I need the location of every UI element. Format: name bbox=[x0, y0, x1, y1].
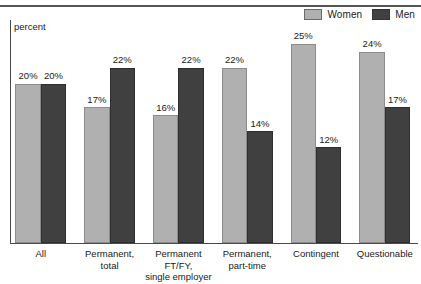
bar-men: 22% bbox=[110, 20, 135, 243]
bar-value-label: 24% bbox=[363, 39, 382, 49]
plot-area: 20%20%17%22%16%22%22%14%25%12%24%17% bbox=[11, 20, 417, 243]
category-label-line: single employer bbox=[135, 271, 222, 283]
bar-value-label: 25% bbox=[294, 31, 313, 41]
legend-item-women: Women bbox=[304, 9, 362, 20]
bar-value-label: 22% bbox=[225, 55, 244, 65]
bar-rect bbox=[41, 84, 66, 243]
bar-chart: Women Men percent 20%20%17%22%16%22%22%1… bbox=[0, 0, 421, 284]
bar-men: 14% bbox=[247, 20, 272, 243]
bar-rect bbox=[385, 107, 410, 242]
bar-rect bbox=[178, 68, 203, 243]
bar-women: 20% bbox=[15, 20, 40, 243]
category-label-line: Questionable bbox=[341, 248, 421, 260]
legend-swatch-icon-men bbox=[372, 9, 390, 20]
legend-swatch-icon-women bbox=[304, 9, 322, 20]
bar-rect bbox=[110, 68, 135, 243]
bar-women: 24% bbox=[359, 20, 384, 243]
chart-legend: Women Men bbox=[304, 9, 415, 20]
bar-women: 22% bbox=[222, 20, 247, 243]
bar-rect bbox=[153, 115, 178, 242]
bar-value-label: 14% bbox=[250, 119, 269, 129]
bar-value-label: 16% bbox=[156, 103, 175, 113]
bar-value-label: 20% bbox=[44, 71, 63, 81]
bar-men: 22% bbox=[178, 20, 203, 243]
bar-rect bbox=[359, 52, 384, 243]
bar-value-label: 22% bbox=[113, 55, 132, 65]
bar-women: 25% bbox=[291, 20, 316, 243]
bar-men: 12% bbox=[316, 20, 341, 243]
category-label-line: part-time bbox=[204, 260, 291, 272]
bar-rect bbox=[291, 44, 316, 243]
bar-rect bbox=[84, 107, 109, 242]
bar-rect bbox=[247, 131, 272, 242]
bar-value-label: 17% bbox=[87, 95, 106, 105]
bar-rect bbox=[222, 68, 247, 243]
legend-label-women: Women bbox=[327, 10, 362, 20]
category-label: Questionable bbox=[341, 248, 421, 260]
bar-value-label: 12% bbox=[319, 135, 338, 145]
bar-value-label: 17% bbox=[388, 95, 407, 105]
legend-label-men: Men bbox=[395, 10, 415, 20]
bar-women: 16% bbox=[153, 20, 178, 243]
header-rule bbox=[0, 5, 421, 7]
bar-men: 17% bbox=[385, 20, 410, 243]
bar-men: 20% bbox=[41, 20, 66, 243]
bar-value-label: 22% bbox=[182, 55, 201, 65]
legend-item-men: Men bbox=[372, 9, 415, 20]
category-axis: AllPermanent,totalPermanentFT/FY,single … bbox=[11, 248, 417, 284]
bar-rect bbox=[316, 147, 341, 242]
bar-women: 17% bbox=[84, 20, 109, 243]
bar-value-label: 20% bbox=[19, 71, 38, 81]
bar-rect bbox=[15, 84, 40, 243]
